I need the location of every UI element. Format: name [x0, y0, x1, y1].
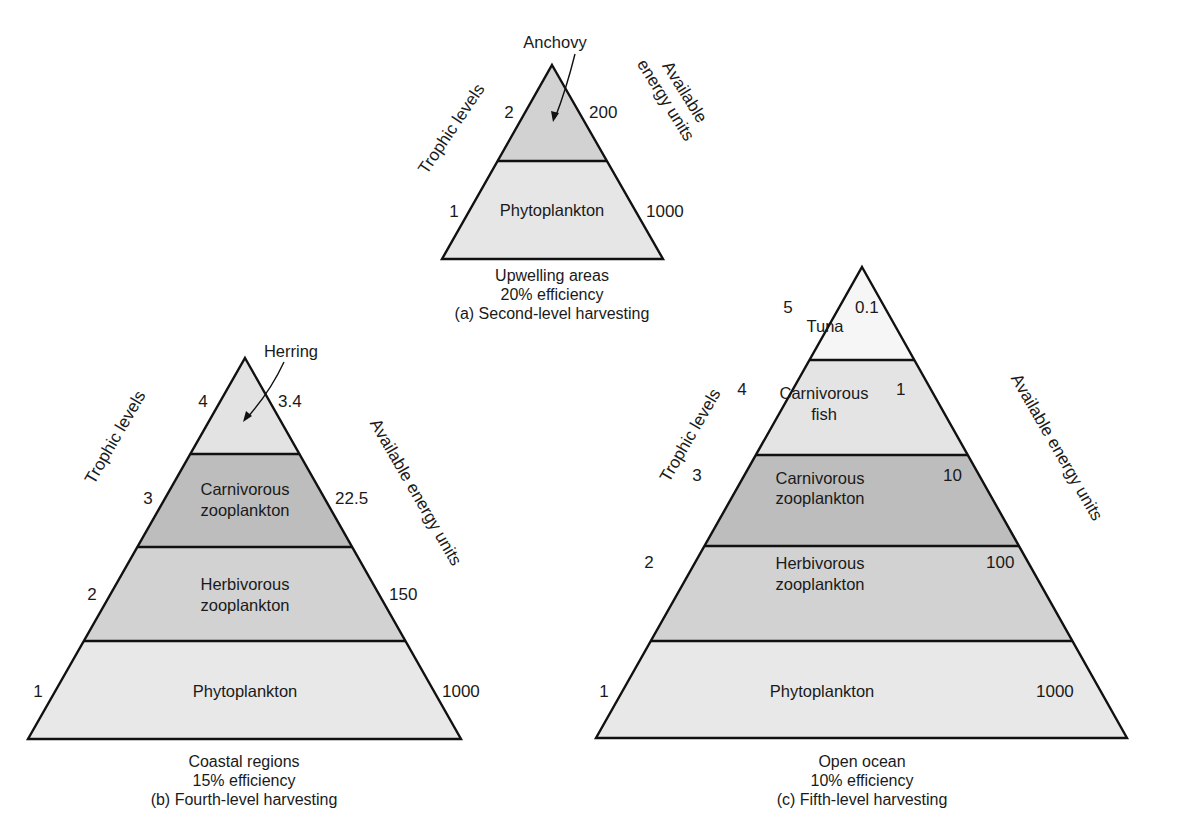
trophic-level-number: 1	[449, 202, 458, 221]
energy-value: 200	[589, 103, 617, 122]
trophic-level-number: 3	[143, 489, 152, 508]
caption-title: (b) Fourth-level harvesting	[151, 791, 338, 808]
energy-pyramids-diagram: Phytoplankton 2 1 200 1000 Anchovy Troph…	[0, 0, 1187, 838]
energy-value: 10	[943, 466, 962, 485]
trophic-level-number: 5	[783, 298, 792, 317]
trophic-level-number: 1	[599, 682, 608, 701]
band-label-carnivorous-fish: Carnivorous	[780, 384, 869, 402]
pyramid-b-coastal: Carnivorous zooplankton Herbivorous zoop…	[28, 342, 480, 808]
caption-line: 20% efficiency	[501, 286, 604, 303]
band-label-carnivorous-zooplankton: Carnivorous	[776, 469, 865, 487]
trophic-level-number: 2	[87, 585, 96, 604]
caption-line: Upwelling areas	[495, 267, 609, 284]
band-label-herbivorous-zooplankton: Herbivorous	[201, 575, 290, 593]
caption-title: (a) Second-level harvesting	[455, 305, 650, 322]
callout-herring-label: Herring	[264, 342, 318, 360]
energy-value: 150	[389, 585, 417, 604]
band-label-tuna: Tuna	[807, 317, 845, 335]
band-b-level-2	[84, 547, 406, 641]
band-label-carnivorous-fish: fish	[811, 405, 837, 423]
trophic-level-number: 3	[692, 466, 701, 485]
axis-title-available-energy-units: Available energy units	[1007, 371, 1106, 524]
energy-value: 1000	[646, 202, 684, 221]
band-label-herbivorous-zooplankton: zooplankton	[776, 575, 865, 593]
axis-title-available-energy-units: Available energy units	[366, 416, 465, 569]
caption-line: 10% efficiency	[811, 772, 914, 789]
caption-line: Open ocean	[818, 753, 905, 770]
pyramid-a-upwelling: Phytoplankton 2 1 200 1000 Anchovy Troph…	[414, 33, 711, 322]
pyramid-c-open-ocean: Tuna Carnivorous fish Carnivorous zoopla…	[596, 267, 1127, 808]
band-label-phytoplankton: Phytoplankton	[193, 682, 298, 700]
energy-value: 22.5	[335, 489, 368, 508]
band-label-carnivorous-zooplankton: Carnivorous	[201, 480, 290, 498]
band-label-phytoplankton: Phytoplankton	[770, 682, 875, 700]
caption-line: 15% efficiency	[193, 772, 296, 789]
band-label-herbivorous-zooplankton: zooplankton	[201, 596, 290, 614]
axis-title-trophic-levels: Trophic levels	[414, 80, 488, 177]
energy-value: 100	[986, 553, 1014, 572]
trophic-level-number: 2	[644, 553, 653, 572]
trophic-level-number: 1	[33, 682, 42, 701]
band-c-level-4	[756, 360, 968, 455]
energy-value: 3.4	[278, 392, 302, 411]
trophic-level-number: 4	[737, 380, 746, 399]
energy-value: 1000	[442, 682, 480, 701]
band-label-phytoplankton: Phytoplankton	[500, 201, 605, 219]
band-label-carnivorous-zooplankton: zooplankton	[201, 501, 290, 519]
axis-title-trophic-levels: Trophic levels	[81, 387, 150, 487]
callout-anchovy-label: Anchovy	[523, 33, 587, 51]
energy-value: 1000	[1036, 682, 1074, 701]
trophic-level-number: 4	[198, 392, 207, 411]
band-label-herbivorous-zooplankton: Herbivorous	[776, 554, 865, 572]
axis-title-trophic-levels: Trophic levels	[656, 385, 725, 485]
caption-line: Coastal regions	[188, 753, 299, 770]
caption-title: (c) Fifth-level harvesting	[777, 791, 948, 808]
energy-value: 1	[896, 380, 905, 399]
trophic-level-number: 2	[504, 103, 513, 122]
band-label-carnivorous-zooplankton: zooplankton	[776, 489, 865, 507]
energy-value: 0.1	[855, 298, 879, 317]
